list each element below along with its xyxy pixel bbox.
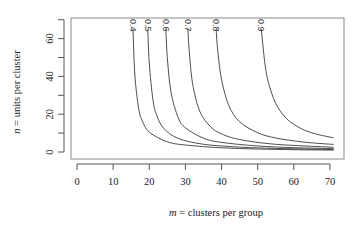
curve-label-0.5: 0.5 — [143, 19, 153, 32]
curve-0.7 — [188, 29, 334, 148]
x-tick-label: 10 — [108, 176, 119, 187]
curve-label-0.4: 0.4 — [128, 19, 138, 32]
y-tick-label: 40 — [44, 71, 55, 82]
y-axis: 0204060 — [44, 20, 64, 155]
curve-label-0.7: 0.7 — [183, 19, 193, 32]
x-tick-label: 20 — [144, 176, 155, 187]
x-axis-title: m = clusters per group — [169, 207, 263, 218]
plot-box — [71, 18, 344, 159]
x-tick-label: 30 — [180, 176, 191, 187]
curve-label-0.9: 0.9 — [256, 19, 266, 32]
curves-group — [133, 29, 334, 150]
y-tick-label: 60 — [44, 33, 55, 44]
y-tick-label: 20 — [44, 109, 55, 120]
curve-0.9 — [261, 29, 333, 138]
power-curves-chart: 0.40.50.60.70.80.9 010203040506070 02040… — [0, 0, 356, 229]
x-tick-label: 60 — [289, 176, 300, 187]
curve-0.4 — [133, 30, 334, 151]
x-tick-label: 70 — [325, 176, 336, 187]
x-axis: 010203040506070 — [74, 164, 335, 187]
curve-labels-group: 0.40.50.60.70.80.9 — [128, 19, 266, 32]
x-axis-title-text: = clusters per group — [177, 207, 263, 218]
curve-label-0.6: 0.6 — [161, 19, 171, 32]
x-tick-label: 40 — [216, 176, 227, 187]
curve-label-0.8: 0.8 — [211, 19, 221, 32]
curve-0.6 — [166, 29, 334, 149]
curve-0.5 — [148, 30, 334, 150]
y-axis-title-text: = units per cluster — [11, 50, 22, 129]
x-tick-label: 50 — [252, 176, 263, 187]
curve-0.8 — [216, 29, 334, 144]
y-axis-title: n = units per cluster — [11, 50, 22, 134]
y-tick-label: 0 — [44, 149, 55, 154]
x-tick-label: 0 — [74, 176, 79, 187]
